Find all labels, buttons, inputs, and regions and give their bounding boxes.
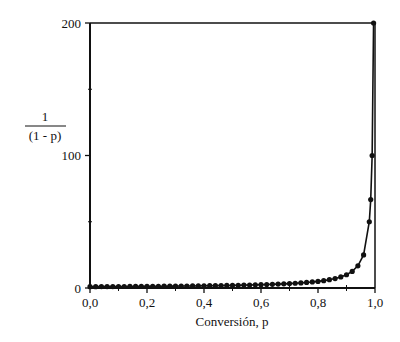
data-point-marker (219, 283, 224, 288)
data-point-marker (190, 283, 195, 288)
data-point-marker (150, 284, 155, 289)
y-tick-label: 0 (75, 281, 82, 296)
y-axis: 0100200 (62, 16, 93, 296)
data-point-marker (338, 274, 343, 279)
y-axis-label-numerator: 1 (42, 109, 49, 124)
data-point-marker (241, 283, 246, 288)
x-tick-label: 1,0 (367, 295, 383, 310)
chart: 0,00,20,40,60,81,0 0100200 Conversión, p… (0, 0, 400, 342)
data-point-marker (371, 20, 376, 25)
data-point-marker (230, 283, 235, 288)
data-point-marker (327, 277, 332, 282)
data-point-marker (213, 283, 218, 288)
x-tick-label: 0,6 (253, 295, 270, 310)
data-point-marker (264, 282, 269, 287)
y-tick-label: 200 (62, 16, 82, 31)
data-point-marker (321, 278, 326, 283)
data-point-marker (276, 282, 281, 287)
data-point-marker (144, 284, 149, 289)
data-point-marker (270, 282, 275, 287)
plot-frame (90, 23, 375, 288)
data-point-marker (167, 284, 172, 289)
data-point-marker (184, 283, 189, 288)
data-point-marker (105, 284, 110, 289)
data-point-marker (196, 283, 201, 288)
x-tick-label: 0,4 (196, 295, 213, 310)
data-point-marker (99, 284, 104, 289)
data-point-marker (139, 284, 144, 289)
y-tick-label: 100 (62, 148, 82, 163)
data-point-marker (162, 284, 167, 289)
x-tick-label: 0,2 (139, 295, 155, 310)
series-line (90, 23, 374, 287)
y-axis-label: 1 (1 - p) (25, 109, 66, 143)
data-series (87, 20, 376, 289)
data-point-marker (310, 279, 315, 284)
data-point-marker (367, 219, 372, 224)
data-point-marker (344, 272, 349, 277)
data-point-marker (333, 276, 338, 281)
data-point-marker (133, 284, 138, 289)
x-tick-label: 0,8 (310, 295, 326, 310)
data-point-marker (173, 284, 178, 289)
data-point-marker (201, 283, 206, 288)
data-point-marker (247, 282, 252, 287)
data-point-marker (298, 280, 303, 285)
data-point-marker (368, 197, 373, 202)
data-point-marker (207, 283, 212, 288)
data-point-marker (116, 284, 121, 289)
data-point-marker (361, 252, 366, 257)
data-point-marker (224, 283, 229, 288)
data-point-marker (93, 284, 98, 289)
data-point-marker (258, 282, 263, 287)
data-point-marker (304, 280, 309, 285)
data-point-marker (281, 281, 286, 286)
data-point-marker (293, 281, 298, 286)
data-point-marker (122, 284, 127, 289)
data-point-marker (87, 284, 92, 289)
data-point-marker (350, 269, 355, 274)
x-tick-label: 0,0 (82, 295, 98, 310)
data-point-marker (179, 283, 184, 288)
data-point-marker (287, 281, 292, 286)
y-axis-label-denominator: (1 - p) (29, 128, 62, 143)
data-point-marker (253, 282, 258, 287)
data-point-marker (236, 283, 241, 288)
data-point-marker (370, 153, 375, 158)
x-axis-label: Conversión, p (196, 314, 269, 329)
data-point-marker (156, 284, 161, 289)
data-point-marker (127, 284, 132, 289)
data-point-marker (315, 279, 320, 284)
data-point-marker (355, 263, 360, 268)
data-point-marker (110, 284, 115, 289)
